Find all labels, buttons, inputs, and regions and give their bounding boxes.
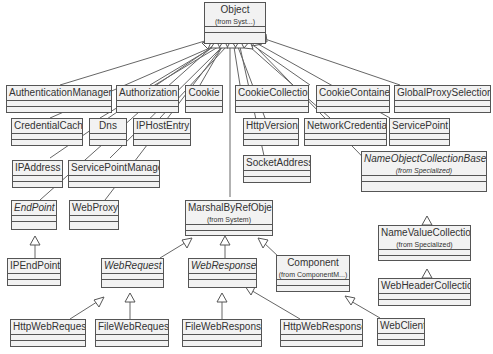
- class-name: NameObjectCollectionBase: [362, 152, 486, 166]
- operations-compartment: [379, 299, 470, 305]
- class-web-client[interactable]: WebClient: [377, 318, 425, 346]
- operations-compartment: [12, 221, 56, 229]
- class-ip-host-entry[interactable]: IPHostEntry: [133, 118, 191, 146]
- class-package: (from System): [186, 215, 272, 224]
- class-authentication-manager[interactable]: AuthenticationManager: [6, 85, 112, 113]
- class-name: CredentialCache: [12, 119, 82, 133]
- operations-compartment: [205, 32, 265, 43]
- class-name: EndPoint: [12, 201, 56, 215]
- class-http-web-request[interactable]: HttpWebRequest: [10, 319, 86, 347]
- operations-compartment: [379, 255, 470, 261]
- class-package: (from Syst...): [205, 17, 265, 26]
- operations-compartment: [362, 181, 486, 191]
- class-name: Dns: [90, 119, 126, 133]
- class-service-point-manager[interactable]: ServicePointManager: [68, 160, 160, 188]
- class-web-header-collection[interactable]: WebHeaderCollection: [378, 278, 471, 306]
- class-name: HttpWebRequest: [11, 320, 85, 334]
- class-name: AuthenticationManager: [7, 86, 111, 100]
- class-service-point[interactable]: ServicePoint: [389, 118, 450, 146]
- class-network-credential[interactable]: NetworkCredential: [304, 118, 387, 146]
- operations-compartment: [7, 106, 111, 112]
- class-cookie[interactable]: Cookie: [185, 85, 223, 113]
- class-ip-end-point[interactable]: IPEndPoint: [7, 258, 61, 286]
- class-http-web-response[interactable]: HttpWebResponse: [280, 319, 363, 347]
- class-http-version[interactable]: HttpVersion: [243, 118, 299, 146]
- operations-compartment: [134, 139, 190, 145]
- operations-compartment: [90, 139, 126, 145]
- class-global-proxy-selection[interactable]: GlobalProxySelection: [394, 85, 491, 113]
- uml-class-diagram: Object (from Syst...) AuthenticationMana…: [0, 0, 493, 354]
- operations-compartment: [277, 285, 349, 291]
- operations-compartment: [317, 106, 389, 112]
- class-object[interactable]: Object (from Syst...): [204, 2, 266, 44]
- operations-compartment: [186, 230, 272, 236]
- class-name: Cookie: [186, 86, 222, 100]
- class-name: IPEndPoint: [8, 259, 60, 273]
- operations-compartment: [281, 340, 362, 346]
- class-name: Object: [205, 3, 265, 17]
- class-name: WebHeaderCollection: [379, 279, 470, 293]
- class-web-response[interactable]: WebResponse: [188, 258, 257, 288]
- operations-compartment: [102, 279, 163, 287]
- class-name: NameValueCollection: [379, 226, 470, 240]
- class-name: WebResponse: [189, 259, 256, 273]
- class-web-request[interactable]: WebRequest: [101, 258, 164, 288]
- operations-compartment: [8, 279, 60, 285]
- class-name: IPAddress: [13, 161, 62, 175]
- class-credential-cache[interactable]: CredentialCache: [11, 118, 83, 146]
- class-file-web-request[interactable]: FileWebRequest: [95, 319, 169, 347]
- operations-compartment: [186, 106, 222, 112]
- operations-compartment: [189, 279, 256, 287]
- operations-compartment: [96, 340, 168, 346]
- class-name-value-collection[interactable]: NameValueCollection (from Specialized): [378, 225, 471, 261]
- class-name: Authorization: [117, 86, 178, 100]
- class-name: HttpVersion: [244, 119, 298, 133]
- operations-compartment: [244, 176, 310, 182]
- operations-compartment: [305, 139, 386, 145]
- class-name: WebRequest: [102, 259, 163, 273]
- class-cookie-container[interactable]: CookieContainer: [316, 85, 390, 113]
- operations-compartment: [13, 181, 62, 187]
- operations-compartment: [390, 139, 449, 145]
- class-authorization[interactable]: Authorization: [116, 85, 179, 113]
- class-name: GlobalProxySelection: [395, 86, 490, 100]
- class-cookie-collection[interactable]: CookieCollection: [235, 85, 309, 113]
- class-name: FileWebResponse: [183, 320, 261, 334]
- class-marshal-by-ref-object[interactable]: MarshalByRefObject (from System): [185, 200, 273, 236]
- class-name: ServicePoint: [390, 119, 449, 133]
- class-name: NetworkCredential: [305, 119, 386, 133]
- class-name: HttpWebResponse: [281, 320, 362, 334]
- class-name: MarshalByRefObject: [186, 201, 272, 215]
- class-socket-address[interactable]: SocketAddress: [243, 155, 311, 183]
- operations-compartment: [70, 221, 118, 229]
- operations-compartment: [378, 339, 424, 345]
- class-name: SocketAddress: [244, 156, 310, 170]
- class-name: Component: [277, 256, 349, 270]
- class-package: (from Specialized): [379, 240, 470, 249]
- class-ip-address[interactable]: IPAddress: [12, 160, 63, 188]
- class-name: IPHostEntry: [134, 119, 190, 133]
- operations-compartment: [11, 340, 85, 346]
- class-name: ServicePointManager: [69, 161, 159, 175]
- operations-compartment: [117, 106, 178, 112]
- operations-compartment: [236, 106, 308, 112]
- class-component[interactable]: Component (from ComponentM...): [276, 255, 350, 292]
- class-endpoint[interactable]: EndPoint: [11, 200, 57, 230]
- class-package: (from Specialized): [362, 166, 486, 175]
- class-name: CookieCollection: [236, 86, 308, 100]
- class-file-web-response[interactable]: FileWebResponse: [182, 319, 262, 347]
- class-name: CookieContainer: [317, 86, 389, 100]
- class-name-object-collection-base[interactable]: NameObjectCollectionBase (from Specializ…: [361, 151, 487, 192]
- operations-compartment: [244, 139, 298, 145]
- operations-compartment: [183, 340, 261, 346]
- class-name: WebClient: [378, 319, 424, 333]
- class-name: FileWebRequest: [96, 320, 168, 334]
- operations-compartment: [69, 181, 159, 187]
- class-name: WebProxy: [70, 201, 118, 215]
- operations-compartment: [395, 106, 490, 112]
- class-package: (from ComponentM...): [277, 270, 349, 279]
- class-web-proxy[interactable]: WebProxy: [69, 200, 119, 230]
- class-dns[interactable]: Dns: [89, 118, 127, 146]
- operations-compartment: [12, 139, 82, 145]
